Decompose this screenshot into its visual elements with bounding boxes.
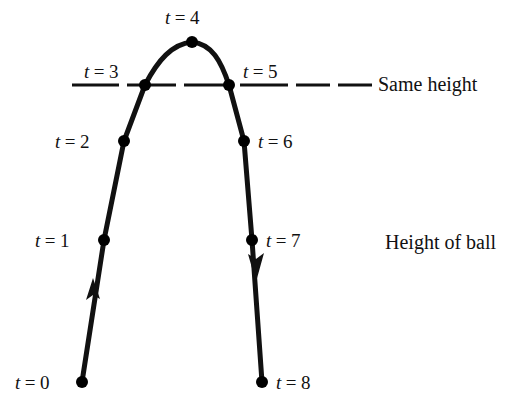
label-t5-var: t (243, 61, 252, 82)
label-t5-eq: = (252, 61, 268, 82)
same-height-annotation: Same height (378, 74, 477, 94)
label-t6-eq: = (267, 131, 283, 152)
label-t4: t=4 (165, 8, 200, 27)
label-t1: t=1 (35, 231, 70, 250)
label-t7-num: 7 (291, 230, 301, 251)
marker-t8 (256, 376, 268, 388)
label-t2-num: 2 (80, 131, 90, 152)
marker-t1 (98, 234, 110, 246)
marker-t5 (223, 79, 235, 91)
marker-t2 (118, 135, 130, 147)
time-markers (76, 36, 268, 388)
label-t1-eq: = (44, 230, 60, 251)
label-t5: t=5 (243, 62, 278, 81)
label-t8-eq: = (285, 372, 301, 393)
trajectory-curve (82, 42, 262, 382)
label-t0: t=0 (15, 373, 50, 392)
label-t0-eq: = (24, 372, 40, 393)
label-t8-num: 8 (301, 372, 311, 393)
marker-t3 (139, 79, 151, 91)
label-t5-num: 5 (268, 61, 278, 82)
label-t4-eq: = (174, 7, 190, 28)
label-t6-var: t (258, 131, 267, 152)
marker-t7 (246, 234, 258, 246)
label-t7-eq: = (275, 230, 291, 251)
label-t3-eq: = (93, 61, 109, 82)
label-t2-var: t (55, 131, 64, 152)
label-t7-var: t (266, 230, 275, 251)
label-t8-var: t (276, 372, 285, 393)
label-t1-var: t (35, 230, 44, 251)
label-t4-num: 4 (190, 7, 200, 28)
label-t3: t=3 (84, 62, 119, 81)
label-t4-var: t (165, 7, 174, 28)
label-t0-var: t (15, 372, 24, 393)
label-t7: t=7 (266, 231, 301, 250)
label-t8: t=8 (276, 373, 311, 392)
marker-t6 (238, 135, 250, 147)
marker-t4 (186, 36, 198, 48)
label-t6-num: 6 (283, 131, 293, 152)
label-t6: t=6 (258, 132, 293, 151)
label-t2: t=2 (55, 132, 90, 151)
ball-trajectory-figure: t=4 t=3 t=5 t=2 t=6 t=1 t=7 t=0 t=8 Same… (0, 0, 515, 407)
height-of-ball-annotation: Height of ball (385, 232, 496, 252)
label-t1-num: 1 (60, 230, 70, 251)
label-t0-num: 0 (40, 372, 50, 393)
label-t3-var: t (84, 61, 93, 82)
label-t2-eq: = (64, 131, 80, 152)
descent-arrow-icon (248, 253, 264, 282)
marker-t0 (76, 376, 88, 388)
label-t3-num: 3 (109, 61, 119, 82)
